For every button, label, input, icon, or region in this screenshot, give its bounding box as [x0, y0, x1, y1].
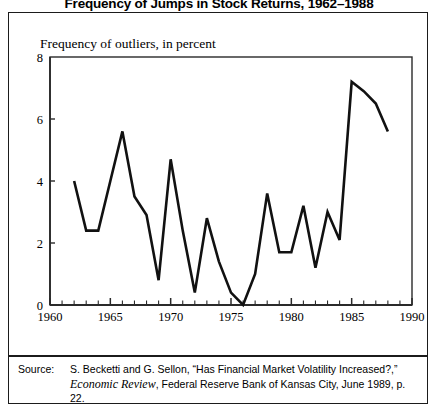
source-note: Source: S. Becketti and G. Sellon, “Has … — [18, 362, 418, 406]
source-label: Source: — [18, 362, 66, 377]
chart-svg: 024681960196519701975198019851990 — [0, 0, 438, 412]
y-tick-label: 2 — [37, 237, 43, 251]
x-tick-label: 1960 — [38, 310, 63, 324]
x-tick-label: 1975 — [219, 310, 244, 324]
source-publication: Economic Review — [70, 377, 156, 391]
x-tick-label: 1985 — [339, 310, 364, 324]
source-text-part1: S. Becketti and G. Sellon, “Has Financia… — [70, 363, 397, 375]
y-tick-label: 8 — [37, 51, 43, 65]
y-tick-label: 4 — [37, 175, 44, 189]
x-tick-label: 1965 — [98, 310, 123, 324]
chart-axes — [50, 57, 412, 305]
chart-data-line — [74, 82, 388, 305]
chart-tick-labels: 024681960196519701975198019851990 — [37, 51, 425, 325]
x-tick-label: 1980 — [279, 310, 304, 324]
x-tick-label: 1990 — [400, 310, 425, 324]
y-tick-label: 6 — [37, 113, 43, 127]
source-text: S. Becketti and G. Sellon, “Has Financia… — [70, 362, 418, 406]
x-tick-label: 1970 — [158, 310, 183, 324]
source-divider — [9, 355, 427, 357]
series-line-frequency-of-outliers — [74, 82, 388, 305]
chart-plot-area: 024681960196519701975198019851990 — [0, 0, 438, 412]
